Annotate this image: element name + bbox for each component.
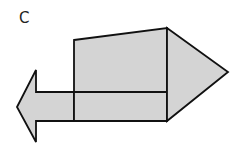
left-arrow xyxy=(17,70,74,142)
lower-rectangle xyxy=(74,92,167,121)
right-triangle xyxy=(167,28,228,121)
upper-quadrilateral xyxy=(74,28,167,92)
composite-shape-diagram xyxy=(0,0,244,157)
